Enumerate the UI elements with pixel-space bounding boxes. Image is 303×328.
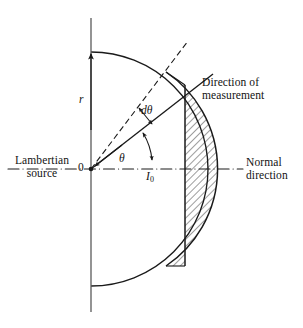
label-origin: 0: [78, 161, 84, 174]
origin-point: [89, 167, 94, 172]
label-d-theta: dθ: [141, 104, 153, 117]
label-lambertian-source: Lambertian source: [6, 154, 78, 179]
lambertian-source-diagram: Lambertian source 0 r dθ θ I0 Direction …: [0, 0, 303, 328]
theta-arc-arrow: [143, 133, 152, 160]
origin-arrow: [95, 145, 122, 166]
label-normal-direction: Normal direction: [246, 156, 302, 181]
band-top-cap: [166, 72, 185, 85]
label-direction-of-measurement: Direction of measurement: [202, 76, 298, 101]
label-theta: θ: [119, 152, 125, 165]
label-intensity-i0: I0: [146, 170, 154, 187]
label-intensity-subscript: 0: [150, 175, 154, 184]
label-radius-r: r: [79, 93, 84, 106]
